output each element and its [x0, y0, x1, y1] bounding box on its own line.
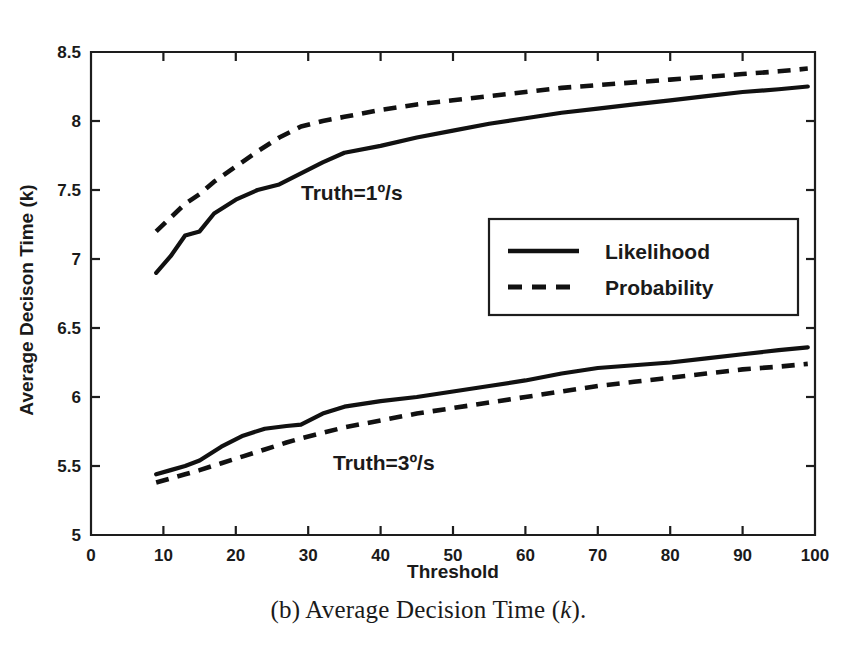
legend-label-likelihood: Likelihood [605, 240, 710, 263]
caption-prefix: (b) Average Decision Time ( [271, 596, 561, 623]
x-tick-label: 20 [226, 546, 245, 565]
x-tick-label: 0 [86, 546, 95, 565]
y-axis-title: Average Decison Time (k) [16, 184, 37, 415]
chart-plot: 0102030405060708090100 55.566.577.588.5 … [0, 0, 857, 657]
figure-caption: (b) Average Decision Time (k). [0, 596, 857, 624]
series-curve [156, 364, 808, 483]
x-tick-label: 60 [516, 546, 535, 565]
x-axis-title: Threshold [407, 561, 499, 582]
x-tick-label: 80 [661, 546, 680, 565]
legend-box [489, 219, 798, 315]
figure-container: 0102030405060708090100 55.566.577.588.5 … [0, 0, 857, 657]
x-tick-label: 70 [588, 546, 607, 565]
x-tick-label: 100 [801, 546, 829, 565]
x-tick-label: 40 [371, 546, 390, 565]
y-tick-label: 5.5 [57, 457, 81, 476]
x-tick-label: 90 [733, 546, 752, 565]
caption-italic-k: k [560, 596, 571, 623]
caption-suffix: ). [571, 596, 586, 623]
y-tick-label: 8 [72, 112, 81, 131]
legend-label-probability: Probability [605, 276, 714, 299]
series-curve [156, 69, 808, 232]
y-tick-label: 5 [72, 526, 81, 545]
annotation-truth-3: Truth=3º/s [333, 451, 435, 474]
y-tick-label: 8.5 [57, 43, 81, 62]
legend: Likelihood Probability [489, 219, 798, 315]
y-tick-label: 6.5 [57, 319, 81, 338]
y-tick-label: 7.5 [57, 181, 81, 200]
y-tick-label: 7 [72, 250, 81, 269]
series-curve [156, 347, 808, 474]
x-tick-label: 30 [299, 546, 318, 565]
x-tick-label: 10 [154, 546, 173, 565]
y-axis-tick-labels: 55.566.577.588.5 [57, 43, 81, 545]
y-tick-label: 6 [72, 388, 81, 407]
annotation-truth-1: Truth=1º/s [301, 181, 403, 204]
